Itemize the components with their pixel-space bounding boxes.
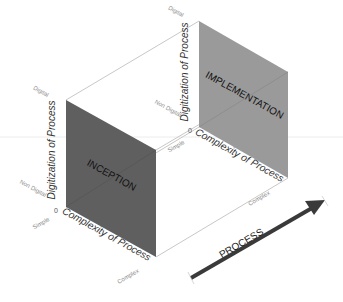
front-horizontal-start-tick: Simple [32, 216, 51, 231]
arrow-head-icon [305, 200, 325, 215]
process-cube-diagram: INCEPTION IMPLEMENTATION Digitization of… [0, 0, 343, 302]
front-horizontal-end-tick: Complex [116, 268, 140, 285]
back-origin-label: 0 [188, 127, 192, 134]
back-horizontal-end-tick: Complex [247, 190, 271, 207]
front-vertical-mid-tick: Non Digital [19, 179, 48, 198]
process-arrow-label: PROCESS [217, 226, 265, 260]
front-origin-label: 0 [54, 207, 58, 214]
back-vertical-axis-title: Digitization of Process [179, 23, 190, 122]
front-vertical-top-tick: Digital [32, 85, 50, 98]
process-arrow [188, 196, 328, 284]
back-vertical-top-tick: Digital [167, 5, 185, 18]
front-vertical-axis-title: Digitization of Process [46, 101, 57, 200]
back-vertical-mid-tick: Non Digital [154, 99, 183, 118]
